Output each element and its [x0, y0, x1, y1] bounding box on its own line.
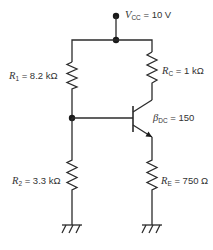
- vcc-subscript: CC: [131, 14, 140, 21]
- r1-value: = 8.2 kΩ: [22, 70, 58, 81]
- beta-subscript: DC: [158, 117, 167, 124]
- r2-label: R2 = 3.3 kΩ: [12, 176, 61, 188]
- resistor-r1: [67, 62, 77, 118]
- ground-left-icon: [62, 225, 82, 233]
- re-label: RE = 750 Ω: [161, 176, 208, 188]
- re-value: = 750 Ω: [174, 175, 208, 186]
- r2-value: = 3.3 kΩ: [25, 175, 61, 186]
- top-rail: [72, 40, 152, 62]
- beta-label: βDC = 150: [153, 113, 194, 125]
- rc-value: = 1 kΩ: [176, 65, 204, 76]
- resistor-re: [147, 137, 157, 225]
- resistor-rc: [147, 52, 157, 100]
- npn-transistor: [133, 100, 152, 137]
- re-subscript: E: [167, 180, 171, 187]
- ground-right-icon: [142, 225, 162, 233]
- vcc-value: = 10 V: [143, 9, 171, 20]
- schematic: [0, 0, 213, 250]
- vcc-terminal: [113, 13, 119, 43]
- rc-subscript: C: [168, 70, 173, 77]
- r1-label: R1 = 8.2 kΩ: [9, 71, 58, 83]
- beta-value: = 150: [170, 112, 194, 123]
- r2-subscript: 2: [18, 180, 22, 187]
- rc-label: RC = 1 kΩ: [162, 66, 204, 78]
- vcc-label: VCC = 10 V: [125, 10, 171, 22]
- r1-subscript: 1: [15, 75, 19, 82]
- resistor-r2: [67, 118, 77, 225]
- circuit-diagram: VCC = 10 V R1 = 8.2 kΩ RC = 1 kΩ βDC = 1…: [0, 0, 213, 250]
